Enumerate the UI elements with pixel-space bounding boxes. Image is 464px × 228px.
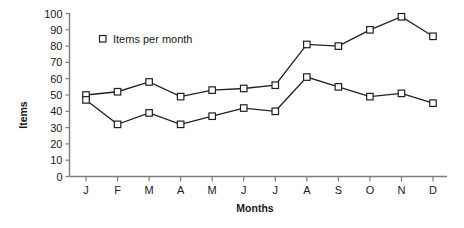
- data-point-marker: [146, 79, 153, 86]
- x-tick-label: J: [83, 184, 89, 196]
- x-tick-label: J: [273, 184, 279, 196]
- x-tick-label: O: [366, 184, 375, 196]
- data-point-marker: [177, 121, 184, 128]
- data-point-marker: [146, 110, 153, 117]
- data-point-marker: [398, 90, 405, 97]
- y-tick-label: 80: [50, 40, 62, 52]
- y-tick-label: 40: [50, 105, 62, 117]
- data-point-marker: [240, 105, 247, 112]
- data-point-marker: [83, 97, 90, 104]
- x-tick-label: M: [208, 184, 217, 196]
- y-tick-label: 90: [50, 24, 62, 36]
- data-point-marker: [367, 27, 374, 34]
- data-point-marker: [304, 41, 311, 48]
- data-point-marker: [177, 93, 184, 100]
- x-tick-label: N: [397, 184, 405, 196]
- data-point-marker: [304, 74, 311, 81]
- y-tick-label: 70: [50, 56, 62, 68]
- y-tick-label: 100: [44, 8, 62, 20]
- y-tick-label: 20: [50, 138, 62, 150]
- data-point-marker: [430, 100, 437, 107]
- x-tick-label: D: [429, 184, 437, 196]
- data-point-marker: [272, 82, 279, 89]
- data-point-marker: [114, 121, 121, 128]
- x-tick-label: S: [335, 184, 342, 196]
- data-point-marker: [367, 93, 374, 100]
- data-point-marker: [209, 113, 216, 120]
- x-tick-label: A: [177, 184, 185, 196]
- legend: Items per month: [100, 33, 193, 45]
- x-tick-label: M: [145, 184, 154, 196]
- data-point-marker: [240, 85, 247, 92]
- chart-canvas: 0102030405060708090100 JFMAMJJASOND Item…: [0, 0, 464, 228]
- y-tick-label: 60: [50, 73, 62, 85]
- legend-marker-icon: [100, 36, 107, 43]
- y-tick-label: 10: [50, 154, 62, 166]
- y-axis-title: Items: [17, 101, 29, 129]
- data-point-marker: [398, 14, 405, 21]
- data-point-marker: [114, 88, 121, 95]
- x-tick-label: J: [241, 184, 247, 196]
- data-point-marker: [335, 43, 342, 50]
- y-tick-label: 50: [50, 89, 62, 101]
- x-tick-label: F: [114, 184, 121, 196]
- data-point-marker: [335, 84, 342, 91]
- line-chart: 0102030405060708090100 JFMAMJJASOND Item…: [0, 0, 464, 228]
- data-point-marker: [272, 108, 279, 115]
- data-point-marker: [209, 87, 216, 94]
- y-tick-label: 30: [50, 122, 62, 134]
- x-tick-label: A: [303, 184, 311, 196]
- x-axis-title: Months: [236, 202, 273, 214]
- legend-label: Items per month: [113, 33, 192, 45]
- data-point-marker: [430, 33, 437, 40]
- y-tick-label: 0: [56, 171, 62, 183]
